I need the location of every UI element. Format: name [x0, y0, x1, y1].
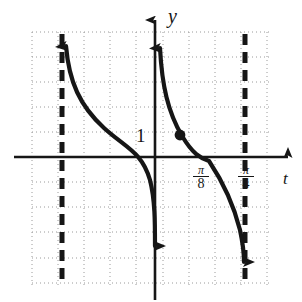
pi-over-4-numerator: π	[237, 164, 255, 176]
tick-label-pi-over-4: π 4	[237, 164, 255, 192]
coordinate-plane	[0, 0, 302, 302]
y-value-one-label: 1	[136, 126, 146, 145]
y-axis-label: y	[168, 6, 177, 26]
curve-middle-right-branch	[160, 48, 244, 262]
pi-over-8-denominator: 8	[192, 177, 210, 191]
x-axis-label: t	[283, 170, 288, 187]
graph-figure: y t 1 π 8 π 4	[0, 0, 302, 302]
pi-over-4-denominator: 4	[237, 177, 255, 191]
marked-point	[175, 130, 186, 141]
pi-over-8-numerator: π	[192, 164, 210, 176]
tick-label-pi-over-8: π 8	[192, 164, 210, 192]
